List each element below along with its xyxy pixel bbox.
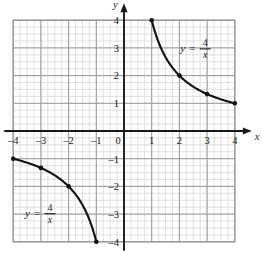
y-tick-label: –4: [108, 237, 120, 248]
y-tick-label: –1: [108, 154, 120, 165]
equation-numerator: 4: [203, 37, 208, 48]
equation-denominator: x: [202, 49, 208, 60]
equation-equals-sign: =: [34, 207, 40, 219]
equation-numerator: 4: [48, 202, 53, 213]
x-tick-label: –1: [90, 135, 102, 146]
y-tick-label: 2: [114, 70, 119, 81]
x-tick-label: 0: [115, 135, 120, 146]
equation-lhs: y: [179, 42, 185, 54]
y-tick-label: –2: [108, 181, 120, 192]
equation-equals-sign: =: [189, 42, 195, 54]
data-point-marker: [66, 184, 71, 189]
y-tick-label: –3: [108, 209, 120, 220]
y-axis-label: y: [112, 0, 118, 10]
data-point-marker: [233, 101, 238, 106]
x-tick-label: 3: [204, 135, 209, 146]
data-point-marker: [94, 240, 99, 245]
x-tick-label: –3: [35, 135, 47, 146]
data-point-marker: [39, 166, 44, 171]
x-tick-label: 4: [232, 135, 238, 146]
x-axis-label: x: [254, 131, 260, 142]
equation-denominator: x: [47, 214, 53, 225]
data-point-marker: [177, 73, 182, 78]
data-point-marker: [205, 92, 210, 97]
y-tick-label: 4: [114, 15, 120, 26]
equation-lhs: y: [24, 207, 30, 219]
y-tick-label: 1: [114, 98, 119, 109]
x-tick-label: –2: [62, 135, 74, 146]
data-point-marker: [149, 18, 154, 23]
x-tick-label: 2: [177, 135, 182, 146]
graph-figure: –4–3–2–101234 4321–1–2–3–4 xy y=4xy=4x: [0, 0, 262, 253]
y-tick-label: 3: [114, 43, 119, 54]
data-point-marker: [11, 156, 16, 161]
x-tick-label: –4: [7, 135, 19, 146]
x-tick-label: 1: [149, 135, 154, 146]
